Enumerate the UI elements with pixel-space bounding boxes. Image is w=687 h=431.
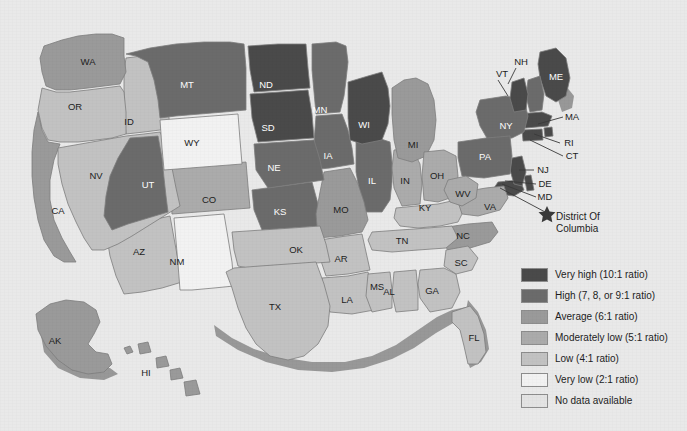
dc-star-marker [539,206,556,222]
state-label-wa: WA [81,56,97,67]
state-label-oh: OH [430,170,444,181]
state-label-ne: NE [267,162,280,173]
state-label-nj: NJ [537,164,549,175]
legend-label: Very high (10:1 ratio) [555,270,648,280]
legend-item[interactable]: Very low (2:1 ratio) [521,369,687,390]
state-label-ks: KS [274,206,287,217]
legend-swatch [521,394,548,408]
state-label-az: AZ [133,246,145,257]
state-label-la: LA [341,294,353,305]
legend-item[interactable]: Very high (10:1 ratio) [521,264,687,285]
state-label-de: DE [538,178,551,189]
state-tn[interactable] [368,226,458,252]
state-ct[interactable] [522,129,543,141]
state-shapes-layer [32,34,570,396]
state-label-sc: SC [454,257,467,268]
state-label-ny: NY [499,120,513,131]
legend-swatch [521,310,548,324]
state-label-or: OR [68,101,82,112]
state-hi[interactable] [124,342,200,396]
state-sd[interactable] [250,90,314,142]
state-label-nh: NH [514,56,528,67]
state-label-ma: MA [565,111,580,122]
state-label-ct: CT [566,150,579,161]
state-label-ok: OK [289,244,303,255]
state-label-nd: ND [259,79,273,90]
state-label-ca: CA [51,205,65,216]
state-label-id: ID [124,116,134,127]
state-label-wv: WV [455,188,471,199]
state-label-hi: HI [141,367,151,378]
state-al[interactable] [392,270,418,312]
state-label-fl: FL [468,332,479,343]
state-or[interactable] [38,86,126,142]
state-label-ri: RI [564,137,574,148]
dc-label-line1: District Of [556,211,626,223]
state-nh[interactable] [526,76,544,112]
state-label-mn: MN [313,104,328,115]
legend-swatch [521,373,548,387]
legend-item[interactable]: Moderately low (5:1 ratio) [521,327,687,348]
state-label-co: CO [202,194,216,205]
state-label-ga: GA [425,285,439,296]
legend-item[interactable]: No data available [521,390,687,411]
state-label-tn: TN [396,235,409,246]
state-label-ky: KY [419,202,432,213]
state-ne[interactable] [254,140,324,188]
state-label-md: MD [538,191,553,202]
legend-label: Low (4:1 ratio) [555,354,619,364]
legend-label: Moderately low (5:1 ratio) [555,333,668,343]
state-nm[interactable] [174,214,234,290]
state-ak[interactable] [36,300,112,374]
state-label-wi: WI [358,119,370,130]
legend-swatch [521,352,548,366]
state-wi[interactable] [348,72,390,144]
legend-item[interactable]: High (7, 8, or 9:1 ratio) [521,285,687,306]
legend-swatch [521,289,548,303]
state-ri[interactable] [544,127,553,137]
state-label-sd: SD [261,122,274,133]
state-label-nc: NC [456,230,470,241]
state-label-me: ME [549,71,563,82]
state-label-ak: AK [49,335,62,346]
state-label-ar: AR [334,253,347,264]
state-label-va: VA [484,201,497,212]
state-nd[interactable] [248,44,310,92]
state-wy[interactable] [160,114,242,170]
legend-swatch [521,331,548,345]
legend-label: Very low (2:1 ratio) [555,375,638,385]
state-vt[interactable] [510,78,528,112]
state-label-vt: VT [496,68,508,79]
state-label-in: IN [400,175,410,186]
state-label-tx: TX [269,301,282,312]
legend-item[interactable]: Average (6:1 ratio) [521,306,687,327]
state-label-al: AL [383,286,395,297]
state-ks[interactable] [252,182,322,230]
state-label-ms: MS [370,281,384,292]
state-label-mi: MI [408,139,419,150]
state-label-nm: NM [170,256,185,267]
legend-swatch [521,268,548,282]
legend-item[interactable]: Low (4:1 ratio) [521,348,687,369]
legend-label: Average (6:1 ratio) [555,312,638,322]
state-label-nv: NV [89,170,103,181]
state-label-wy: WY [184,137,200,148]
state-label-ia: IA [324,150,334,161]
state-label-pa: PA [479,151,492,162]
dc-label: District Of Columbia [556,211,626,234]
state-label-mt: MT [180,79,194,90]
legend-label: High (7, 8, or 9:1 ratio) [555,291,655,301]
dc-label-line2: Columbia [556,223,626,235]
state-label-mo: MO [333,204,348,215]
map-legend: Very high (10:1 ratio)High (7, 8, or 9:1… [521,264,687,411]
state-label-ut: UT [142,179,155,190]
map-page: ALAKAZARCACOCTDEFLGAHIIDILINIAKSKYLAMEMD… [0,0,687,431]
state-label-il: IL [368,175,376,186]
legend-label: No data available [555,396,632,406]
